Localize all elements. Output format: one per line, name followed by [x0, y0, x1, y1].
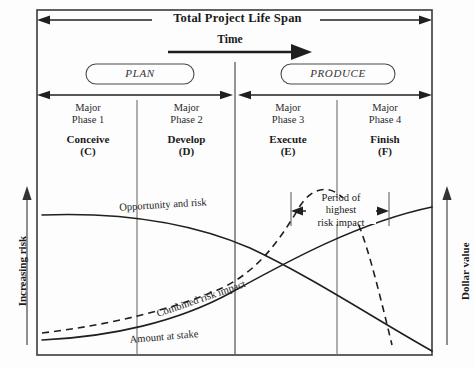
period-annotation-line3: risk impact [300, 217, 382, 229]
plan-group-label: PLAN [86, 67, 194, 79]
phase-2-block: Major Phase 2 Develop (D) [139, 102, 234, 157]
phase-3-major: Major [240, 102, 336, 114]
diagram-title: Total Project Life Span [150, 11, 325, 25]
phase-2-number: Phase 2 [139, 114, 234, 126]
phase-3-code: (E) [240, 145, 336, 157]
produce-group-label: PRODUCE [281, 67, 395, 79]
phase-1-block: Major Phase 1 Conceive (C) [40, 102, 136, 157]
phase-3-number: Phase 3 [240, 114, 336, 126]
project-life-span-diagram: Total Project Life Span Time PLAN PRODUC… [0, 0, 475, 368]
phase-4-block: Major Phase 4 Finish (F) [339, 102, 431, 157]
phase-3-block: Major Phase 3 Execute (E) [240, 102, 336, 157]
right-axis-title: Dollar value [459, 201, 471, 341]
period-annotation: Period of highest risk impact [300, 192, 382, 229]
produce-span-arrow [238, 91, 432, 99]
phase-3-name: Execute [240, 133, 336, 145]
phase-4-name: Finish [339, 133, 431, 145]
dollar-value-axis [442, 186, 451, 345]
phase-1-number: Phase 1 [40, 114, 136, 126]
period-annotation-line1: Period of [300, 192, 382, 204]
phase-1-major: Major [40, 102, 136, 114]
time-axis-label: Time [195, 33, 265, 46]
plan-span-arrow [37, 91, 233, 99]
period-annotation-line2: highest [300, 204, 382, 216]
phase-2-code: (D) [139, 145, 234, 157]
phase-4-major: Major [339, 102, 431, 114]
left-axis-title: Increasing risk [16, 201, 28, 341]
phase-1-name: Conceive [40, 133, 136, 145]
phase-2-major: Major [139, 102, 234, 114]
phase-4-number: Phase 4 [339, 114, 431, 126]
phase-1-code: (C) [40, 145, 136, 157]
phase-2-name: Develop [139, 133, 234, 145]
time-arrow [168, 44, 312, 60]
diagram-canvas [0, 0, 475, 368]
phase-4-code: (F) [339, 145, 431, 157]
